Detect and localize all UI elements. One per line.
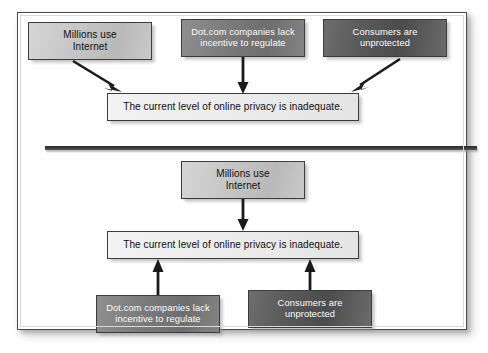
arrow-dotcom-to-conclusion-bottom xyxy=(151,259,165,295)
box-conclusion-bottom: The current level of online privacy is i… xyxy=(107,231,359,259)
box-consumers-unprotected-top: Consumers are unprotected xyxy=(323,19,447,57)
box-text: Dot.com companies lack incentive to regu… xyxy=(183,27,302,50)
box-text: Consumers are unprotected xyxy=(270,298,351,321)
box-text-line2: Internet xyxy=(212,180,273,192)
box-text-line1: Millions use xyxy=(59,29,120,41)
box-text-line1: Millions use xyxy=(212,168,273,180)
box-millions-use-internet-top: Millions use Internet xyxy=(28,22,152,60)
arrow-millions-to-conclusion-bottom xyxy=(236,199,250,232)
box-text: Millions use Internet xyxy=(55,29,124,53)
box-text-line1: Consumers are xyxy=(349,27,422,38)
box-text: Millions use Internet xyxy=(208,168,277,192)
arrow-consumers-to-conclusion-bottom xyxy=(303,259,317,290)
box-dotcom-lack-incentive-top: Dot.com companies lack incentive to regu… xyxy=(181,19,305,57)
box-dotcom-lack-incentive-bottom: Dot.com companies lack incentive to regu… xyxy=(96,295,220,333)
arrow-dotcom-to-conclusion-top xyxy=(236,57,250,95)
box-text-line1: Dot.com companies lack xyxy=(187,27,298,38)
box-text-line1: Consumers are xyxy=(274,298,347,309)
diagram-card: Millions use Internet Dot.com companies … xyxy=(17,12,467,330)
arrow-consumers-to-conclusion-top xyxy=(345,57,403,95)
box-text-line2: incentive to regulate xyxy=(187,38,298,49)
box-text-line1: Dot.com companies lack xyxy=(102,303,213,314)
figure-canvas: Millions use Internet Dot.com companies … xyxy=(0,0,488,353)
box-text-line2: Internet xyxy=(59,41,120,53)
arrow-millions-to-conclusion-top xyxy=(70,59,128,95)
box-millions-use-internet-bottom: Millions use Internet xyxy=(181,161,305,199)
box-text-line2: unprotected xyxy=(274,309,347,320)
box-conclusion-top: The current level of online privacy is i… xyxy=(107,93,359,121)
box-text: Consumers are unprotected xyxy=(345,27,426,50)
box-text-line2: incentive to regulate xyxy=(102,314,213,325)
box-consumers-unprotected-bottom: Consumers are unprotected xyxy=(248,290,372,328)
box-text: The current level of online privacy is i… xyxy=(119,101,347,113)
box-text: The current level of online privacy is i… xyxy=(119,239,347,251)
box-text: Dot.com companies lack incentive to regu… xyxy=(98,303,217,326)
box-text-line2: unprotected xyxy=(349,38,422,49)
panel-divider xyxy=(45,146,477,150)
